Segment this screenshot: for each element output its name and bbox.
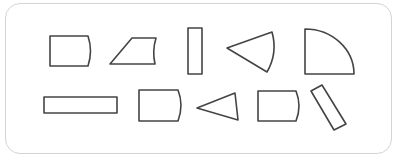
curved-trapezoid-shape [110, 38, 156, 64]
triangle-shape [197, 93, 238, 120]
shapes-canvas [0, 0, 401, 160]
stored-data-rect-shape [50, 36, 91, 66]
stored-data-rect-shape [258, 91, 299, 121]
tilted-rectangle-shape [311, 85, 346, 130]
stored-data-rect-shape [139, 90, 181, 121]
quarter-circle-shape [305, 29, 354, 74]
long-rectangle-shape [44, 97, 117, 113]
circular-sector-shape [227, 32, 274, 72]
tall-rectangle-shape [188, 28, 202, 74]
